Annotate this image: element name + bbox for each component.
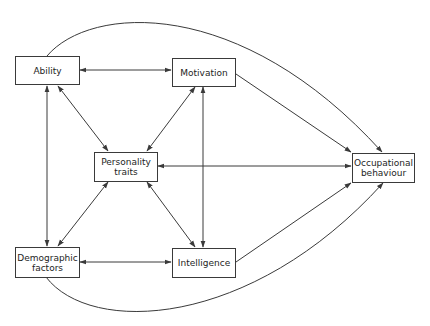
edge-motivation-occupational [236, 74, 351, 152]
node-personality-label-line1: Personality [101, 157, 151, 167]
edge-personality-intelligence [147, 182, 195, 247]
node-ability: Ability [15, 56, 80, 85]
node-ability-label: Ability [33, 66, 61, 76]
edge-personality-demographic [58, 182, 108, 246]
edge-motivation-personality [147, 87, 195, 151]
node-demographic-label-line1: Demographic [17, 253, 78, 263]
node-intelligence: Intelligence [172, 248, 236, 278]
edge-ability-occupational-arc [47, 23, 382, 152]
node-occupational-label-line1: Occupational [354, 158, 413, 168]
node-demographic-label-line2: factors [32, 263, 63, 273]
edge-ability-personality [58, 86, 108, 151]
node-personality-label-line2: traits [114, 167, 137, 177]
node-occupational-behaviour: Occupational behaviour [352, 153, 415, 183]
node-demographic-factors: Demographic factors [15, 247, 80, 278]
node-motivation-label: Motivation [180, 68, 227, 78]
edge-intelligence-occupational [236, 183, 351, 262]
node-occupational-label-line2: behaviour [361, 168, 406, 178]
node-intelligence-label: Intelligence [178, 258, 230, 268]
node-motivation: Motivation [172, 58, 236, 87]
node-personality-traits: Personality traits [94, 152, 158, 182]
